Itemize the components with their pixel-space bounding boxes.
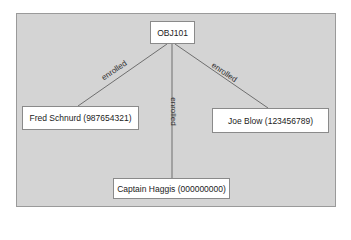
node-label: Fred Schnurd (987654321) xyxy=(29,113,131,123)
node-captain-haggis[interactable]: Captain Haggis (000000000) xyxy=(113,178,230,199)
node-fred-schnurd[interactable]: Fred Schnurd (987654321) xyxy=(22,106,139,130)
node-label: Captain Haggis (000000000) xyxy=(117,184,226,194)
node-joe-blow[interactable]: Joe Blow (123456789) xyxy=(212,108,329,133)
edge-label-captain: enrolled xyxy=(169,97,178,125)
node-label: OBJ101 xyxy=(157,28,188,38)
node-obj101[interactable]: OBJ101 xyxy=(150,21,195,44)
node-label: Joe Blow (123456789) xyxy=(228,116,313,126)
edge-to-fred xyxy=(78,44,167,106)
